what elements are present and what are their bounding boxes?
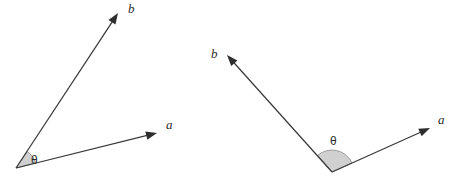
vector-b-label-left: b — [128, 1, 135, 16]
theta-label-left: θ — [31, 153, 38, 167]
acute-angle-panel: a b θ — [16, 1, 173, 168]
vector-a-line-right — [332, 130, 424, 172]
vector-b-arrowhead-left — [108, 13, 118, 25]
vector-a-arrowhead-right — [418, 128, 430, 136]
theta-label-right: θ — [330, 134, 337, 148]
vector-b-label-right: b — [211, 46, 218, 61]
figure-canvas: a b θ a b θ — [0, 0, 463, 177]
vector-b-line-left — [16, 18, 115, 168]
vector-a-label-right: a — [438, 112, 445, 127]
vector-angle-diagram: a b θ a b θ — [0, 0, 463, 177]
obtuse-angle-panel: a b θ — [211, 46, 445, 172]
vector-b-line-right — [231, 60, 332, 172]
vector-a-label-left: a — [166, 117, 173, 132]
vector-a-arrowhead-left — [145, 132, 157, 140]
